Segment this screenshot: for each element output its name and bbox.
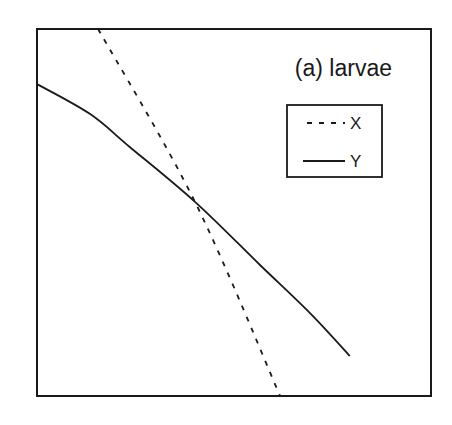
legend-label-x: X <box>350 114 361 133</box>
chart-title: (a) larvae <box>295 55 392 81</box>
series-line-x <box>98 29 280 396</box>
chart: (a) larvae X Y <box>0 0 452 425</box>
series-layer <box>37 29 350 396</box>
legend: X Y <box>287 105 382 177</box>
legend-label-y: Y <box>350 152 361 171</box>
plot-frame <box>37 29 431 396</box>
legend-box <box>287 105 382 177</box>
